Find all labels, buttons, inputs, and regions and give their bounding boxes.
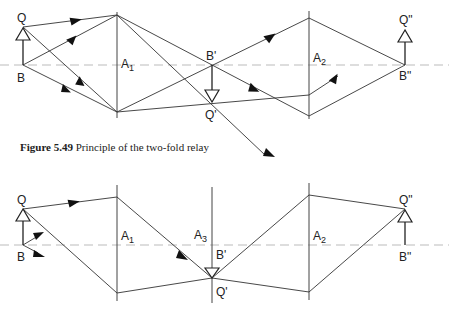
label-q: Q [17,193,26,207]
top-diagram: Q B A1 B' Q' A2 Q" B" [0,11,449,157]
label-b-double-prime: B" [399,250,411,264]
intermediate-image-arrow [205,268,219,278]
bottom-diagram: Q B A1 A3 B' Q' A2 Q" B" [0,183,449,303]
label-b: B [17,250,25,264]
final-image-arrow [398,30,412,65]
label-q: Q [17,11,26,25]
label-b-prime: B' [216,248,226,262]
label-b-prime: B' [206,49,216,63]
label-a3: A3 [194,228,207,244]
label-q-prime: Q' [205,108,217,122]
two-fold-relay-figure: Q B A1 B' Q' A2 Q" B" Figure 5.49 Princi… [0,0,449,313]
label-b: B [17,71,25,85]
label-a2: A2 [313,229,326,245]
ray-arrowheads [33,198,188,260]
label-b-double-prime: B" [399,69,411,83]
label-q-double-prime: Q" [399,13,413,27]
object-arrow [16,209,30,245]
label-a1: A1 [121,57,134,73]
label-a2: A2 [313,51,326,67]
label-q-double-prime: Q" [399,193,413,207]
label-a1: A1 [121,229,134,245]
object-arrow [16,28,30,65]
final-image-arrow [398,210,412,245]
ray-bundle [23,195,405,293]
ray-arrowheads [59,16,342,157]
label-q-prime: Q' [216,285,228,299]
figure-caption: Figure 5.49 Principle of the two-fold re… [20,141,209,153]
intermediate-image-arrow [205,65,219,102]
